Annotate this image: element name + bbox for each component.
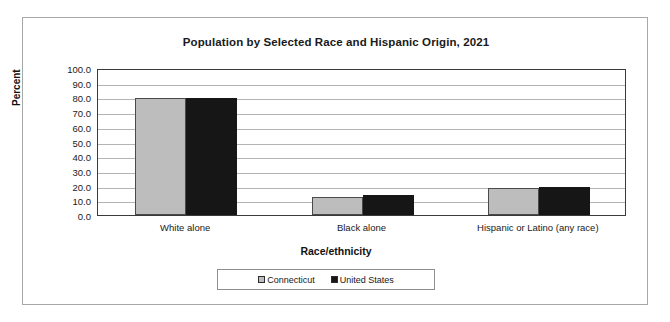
y-axis-tick-100-0: 100.0 xyxy=(45,64,91,75)
y-axis-tick-20-0: 20.0 xyxy=(45,182,91,193)
bar-united-states-black-alone xyxy=(363,195,414,215)
y-axis-tick-0-0: 0.0 xyxy=(45,211,91,222)
y-axis-tick-70-0: 70.0 xyxy=(45,108,91,119)
x-axis-tick-hispanic-or-latino-any-race-: Hispanic or Latino (any race) xyxy=(450,222,626,233)
legend-swatch-icon-united-states xyxy=(331,276,338,283)
y-axis-tick-50-0: 50.0 xyxy=(45,138,91,149)
x-axis-tick-white-alone: White alone xyxy=(97,222,273,233)
bar-connecticut-black-alone xyxy=(312,197,363,215)
bar-connecticut-white-alone xyxy=(135,98,186,215)
y-axis-label: Percent xyxy=(11,69,22,106)
chart-title: Population by Selected Race and Hispanic… xyxy=(23,36,649,48)
bar-united-states-hispanic-or-latino-any-race- xyxy=(539,187,590,215)
legend-label-connecticut: Connecticut xyxy=(267,275,315,285)
y-axis-tick-30-0: 30.0 xyxy=(45,167,91,178)
legend-swatch-icon-connecticut xyxy=(258,276,265,283)
bar-connecticut-hispanic-or-latino-any-race- xyxy=(488,188,539,215)
y-axis-tick-40-0: 40.0 xyxy=(45,152,91,163)
chart-frame: Population by Selected Race and Hispanic… xyxy=(22,17,648,305)
bar-united-states-white-alone xyxy=(186,98,237,215)
legend-item-connecticut: Connecticut xyxy=(258,275,315,285)
legend-item-united-states: United States xyxy=(331,275,394,285)
y-axis-tick-60-0: 60.0 xyxy=(45,123,91,134)
plot-area xyxy=(97,69,626,216)
y-axis-tick-10-0: 10.0 xyxy=(45,196,91,207)
chart-legend: Connecticut United States xyxy=(217,269,435,290)
gridline-90 xyxy=(98,85,625,86)
x-axis-label: Race/ethnicity xyxy=(23,245,649,257)
legend-label-united-states: United States xyxy=(340,275,394,285)
x-axis-tick-black-alone: Black alone xyxy=(273,222,449,233)
y-axis-tick-90-0: 90.0 xyxy=(45,79,91,90)
y-axis-tick-80-0: 80.0 xyxy=(45,93,91,104)
